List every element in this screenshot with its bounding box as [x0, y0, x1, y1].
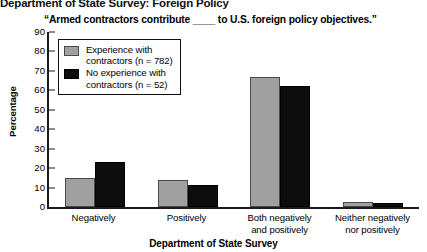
x-category-label-line: Neither negatively [335, 212, 410, 223]
bar [250, 77, 280, 207]
y-tick-label: 20 [34, 163, 45, 173]
bar [343, 202, 373, 207]
bar-group [327, 32, 420, 207]
legend-label-no-experience: No experience with contractors (n = 52) [86, 67, 167, 89]
legend-item: No experience with contractors (n = 52) [64, 67, 173, 89]
y-tick-label: 80 [34, 47, 45, 57]
bar [158, 180, 188, 207]
bar [373, 203, 403, 207]
x-category-label-line: and positively [251, 224, 308, 235]
x-category-label: Positively [140, 212, 233, 238]
legend-label-line1: No experience with [86, 67, 166, 78]
legend-label-line1: Experience with [86, 44, 152, 55]
chart-subtitle: “Armed contractors contribute ____ to U.… [44, 13, 416, 26]
x-category-label: Both negativelyand positively [233, 212, 326, 238]
page-title-text: Department of State Survey: Foreign Poli… [0, 0, 427, 10]
chart-legend: Experience with contractors (n = 782) No… [58, 39, 181, 95]
legend-swatch-no-experience [64, 69, 79, 79]
bar [95, 162, 125, 207]
bar [65, 178, 95, 207]
y-tick-label: 90 [34, 27, 45, 37]
page-title: Department of State Survey: Foreign Poli… [0, 0, 427, 10]
y-tick-label: 60 [34, 86, 45, 96]
bar-group [234, 32, 327, 207]
x-category-label-line: Both negatively [247, 212, 311, 223]
y-tick-label: 10 [34, 183, 45, 193]
y-tick-label: 70 [34, 66, 45, 76]
x-category-label: Negatively [47, 212, 140, 238]
y-axis-title: Percentage [7, 64, 18, 160]
legend-swatch-experience [64, 46, 79, 56]
legend-label-line2: contractors (n = 52) [86, 79, 167, 90]
x-axis-category-labels: NegativelyPositivelyBoth negativelyand p… [47, 212, 419, 238]
legend-label-line2: contractors (n = 782) [86, 55, 173, 66]
y-tick-label: 30 [34, 144, 45, 154]
y-tick-label: 50 [34, 105, 45, 115]
x-category-label-line: Negatively [72, 212, 116, 223]
x-category-label: Neither negativelynor positively [326, 212, 419, 238]
chart-page: Department of State Survey: Foreign Poli… [0, 0, 427, 252]
bar [188, 185, 218, 207]
y-tick-label: 40 [34, 124, 45, 134]
x-category-label-line: nor positively [345, 224, 400, 235]
y-tick-label: 0 [40, 202, 45, 212]
legend-label-experience: Experience with contractors (n = 782) [86, 44, 173, 66]
x-axis-title: Department of State Survey [0, 238, 427, 249]
legend-item: Experience with contractors (n = 782) [64, 44, 173, 66]
x-category-label-line: Positively [167, 212, 207, 223]
bar [280, 86, 310, 207]
